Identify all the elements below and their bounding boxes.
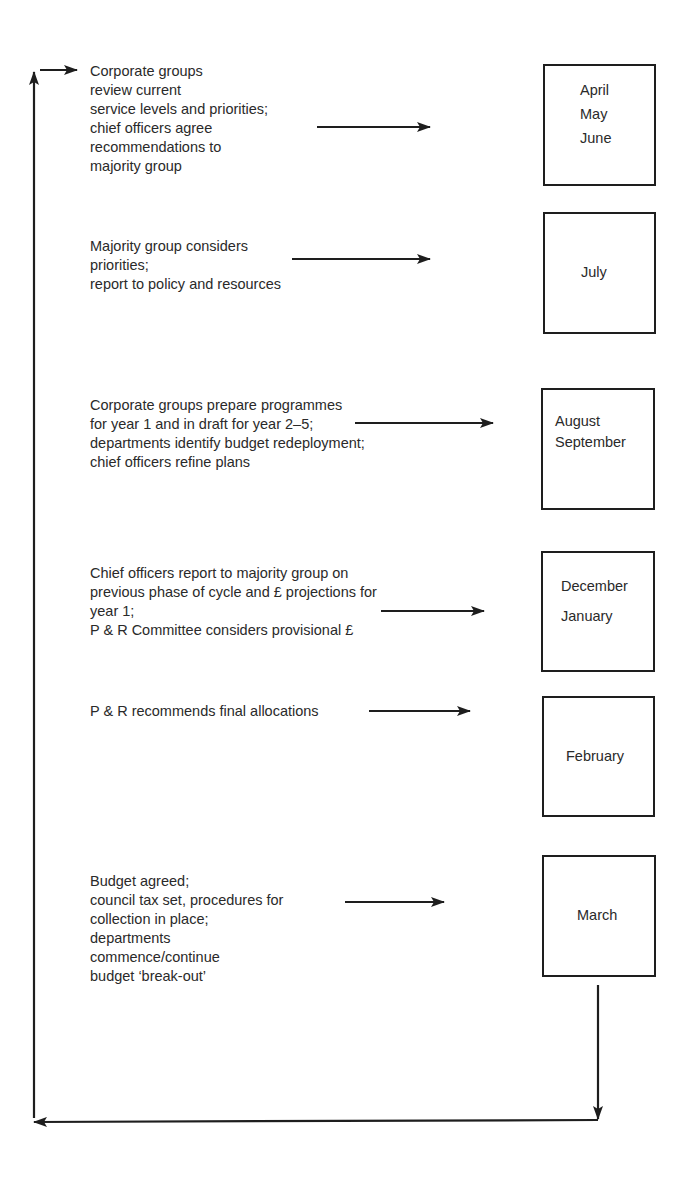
- step-description-4: Chief officers report to majority group …: [90, 564, 377, 640]
- month-label: December: [561, 571, 628, 601]
- step-description-6: Budget agreed; council tax set, procedur…: [90, 872, 283, 986]
- month-box-december-january: December January: [541, 551, 655, 672]
- budget-cycle-diagram: Corporate groups review current service …: [0, 0, 688, 1179]
- step-2-line: report to policy and resources: [90, 275, 281, 294]
- step-4-line: year 1;: [90, 602, 377, 621]
- step-description-2: Majority group considers priorities; rep…: [90, 237, 281, 294]
- step-1-line: majority group: [90, 157, 268, 176]
- step-6-line: collection in place;: [90, 910, 283, 929]
- step-4-line: P & R Committee considers provisional £: [90, 621, 377, 640]
- month-label: May: [580, 102, 611, 126]
- month-label: March: [577, 903, 617, 927]
- month-box-february: February: [542, 696, 655, 817]
- month-label: June: [580, 126, 611, 150]
- month-label: September: [555, 432, 626, 453]
- step-4-line: previous phase of cycle and £ projection…: [90, 583, 377, 602]
- month-box-august-september: August September: [541, 388, 655, 510]
- month-box-april-may-june: April May June: [543, 64, 656, 186]
- step-5-line: P & R recommends final allocations: [90, 702, 319, 721]
- step-3-line: Corporate groups prepare programmes: [90, 396, 365, 415]
- step-6-line: budget ‘break-out’: [90, 967, 283, 986]
- step-6-line: commence/continue: [90, 948, 283, 967]
- month-label: August: [555, 411, 626, 432]
- step-3-line: for year 1 and in draft for year 2–5;: [90, 415, 365, 434]
- month-label: April: [580, 78, 611, 102]
- step-6-line: departments: [90, 929, 283, 948]
- month-label: July: [581, 260, 607, 284]
- month-box-march: March: [542, 855, 656, 977]
- step-3-line: departments identify budget redeployment…: [90, 434, 365, 453]
- step-1-line: chief officers agree: [90, 119, 268, 138]
- month-box-july: July: [543, 212, 656, 334]
- step-description-1: Corporate groups review current service …: [90, 62, 268, 176]
- month-label: February: [566, 744, 624, 768]
- step-6-line: Budget agreed;: [90, 872, 283, 891]
- step-1-line: recommendations to: [90, 138, 268, 157]
- step-description-3: Corporate groups prepare programmes for …: [90, 396, 365, 472]
- step-2-line: priorities;: [90, 256, 281, 275]
- step-2-line: Majority group considers: [90, 237, 281, 256]
- step-4-line: Chief officers report to majority group …: [90, 564, 377, 583]
- step-3-line: chief officers refine plans: [90, 453, 365, 472]
- step-description-5: P & R recommends final allocations: [90, 702, 319, 721]
- step-1-line: Corporate groups: [90, 62, 268, 81]
- month-label: January: [561, 601, 628, 631]
- step-1-line: service levels and priorities;: [90, 100, 268, 119]
- step-1-line: review current: [90, 81, 268, 100]
- step-6-line: council tax set, procedures for: [90, 891, 283, 910]
